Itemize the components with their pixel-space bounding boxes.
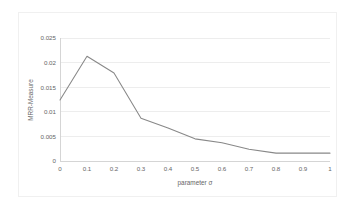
y-axis-title: MRR-Measure [27,79,34,121]
x-tick-label: 0.7 [245,165,254,172]
x-tick-label: 0.1 [83,165,92,172]
y-gridlines [60,38,330,136]
series-line-mrr-measure [60,56,330,153]
x-tick-label: 0 [58,165,62,172]
y-tick-label: 0.005 [41,133,57,140]
y-tick-label: 0.02 [44,59,57,66]
x-tick-label: 0.8 [272,165,281,172]
y-tick-label: 0.01 [44,108,57,115]
x-tick-label: 0.4 [164,165,173,172]
y-tick-labels: 0.025 0.02 0.015 0.01 0.005 0 [41,34,57,164]
line-chart[interactable]: 0.025 0.02 0.015 0.01 0.005 0 0 0.1 0.2 … [0,0,353,211]
x-tick-label: 1 [328,165,332,172]
x-tick-label: 0.6 [218,165,227,172]
x-tick-labels: 0 0.1 0.2 0.3 0.4 0.5 0.6 0.7 0.8 0.9 1 [58,165,332,172]
x-axis-title: parameter σ [178,179,213,187]
y-tick-label: 0.015 [41,84,57,91]
x-tick-label: 0.9 [299,165,308,172]
x-tick-label: 0.2 [110,165,119,172]
figure-root: 0.025 0.02 0.015 0.01 0.005 0 0 0.1 0.2 … [0,0,353,211]
x-tick-label: 0.5 [191,165,200,172]
y-tick-label: 0 [53,157,57,164]
x-tick-label: 0.3 [137,165,146,172]
y-tick-label: 0.025 [41,34,57,41]
